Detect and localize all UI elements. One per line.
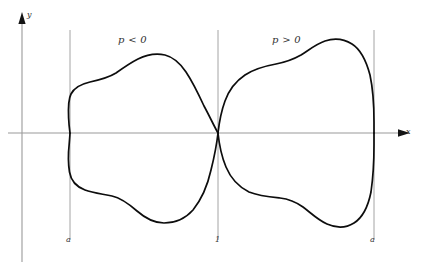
y-axis-label: y: [27, 11, 32, 19]
y-axis-arrow-icon: [18, 12, 25, 24]
region-label-p-negative: p < 0: [118, 35, 147, 45]
region-label-p-positive: p > 0: [272, 35, 301, 45]
right-lobe-upper-path: [218, 39, 374, 133]
right-lobe-lower-path: [218, 133, 374, 227]
tick-label-left-a: a: [66, 236, 71, 244]
tick-label-right-a: a: [370, 236, 375, 244]
x-axis-label: x: [406, 128, 411, 136]
tick-label-one: 1: [215, 236, 220, 244]
vertical-guide-lines: [70, 30, 374, 240]
plot-canvas: [0, 0, 424, 274]
math-figure: y x a 1 a p < 0 p > 0: [0, 0, 424, 274]
left-lobe-curve: [68, 54, 218, 223]
left-lobe-upper-path: [68, 54, 218, 133]
left-lobe-lower-path: [69, 133, 218, 223]
